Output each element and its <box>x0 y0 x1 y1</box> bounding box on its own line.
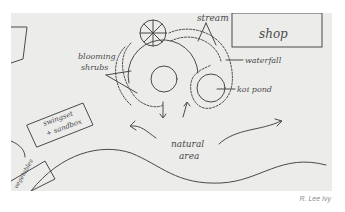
patio-outer-ring <box>128 40 198 83</box>
arrow-icon <box>183 102 190 117</box>
left-edge-box <box>11 27 27 63</box>
vegetables-label: vegetables <box>12 158 35 190</box>
natural-area-label-line1: natural <box>171 139 204 149</box>
shrubs-leader <box>106 71 137 93</box>
photo-credit: R. Lee Ivy <box>299 195 331 202</box>
sketch-paper: stream shop waterfall koi pond blooming … <box>11 13 332 191</box>
koi-pond-label: koi pond <box>237 85 272 94</box>
waterfall-label: waterfall <box>245 56 282 65</box>
natural-area-label-line2: area <box>179 151 199 161</box>
stream-outline <box>169 29 232 108</box>
koi-pond <box>197 74 225 102</box>
blooming-shrubs-label-line1: blooming <box>78 52 116 61</box>
shop-label: shop <box>259 27 288 41</box>
patio-inner-circle <box>151 66 177 92</box>
blooming-shrubs-label-line2: shrubs <box>81 63 108 72</box>
arrow-icon <box>160 102 166 118</box>
garden-plan-drawing: stream shop waterfall koi pond blooming … <box>11 13 332 191</box>
gazebo-icon <box>140 20 166 46</box>
arrow-right-icon <box>219 119 282 144</box>
blooming-shrubs-outline <box>123 43 163 107</box>
arrow-left-icon <box>130 121 156 138</box>
stream-label: stream <box>197 13 229 23</box>
